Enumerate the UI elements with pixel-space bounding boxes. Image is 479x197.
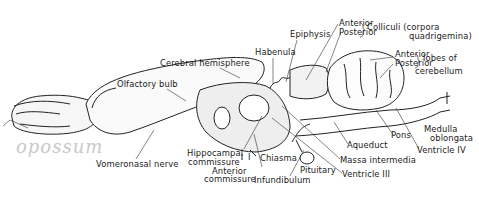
label-epiphysis: Epiphysis bbox=[290, 30, 330, 39]
label-infundibulum: Infundibulum bbox=[254, 176, 311, 185]
label-chiasma: Chiasma bbox=[260, 154, 297, 163]
label-cerebellum-group: lobes of bbox=[423, 54, 457, 63]
label-pituitary: Pituitary bbox=[300, 166, 336, 175]
label-massa-intermedia: Massa intermedia bbox=[340, 156, 416, 165]
label-colliculi-group-2: quadrigemina) bbox=[409, 32, 472, 41]
label-pons: Pons bbox=[391, 131, 411, 140]
label-vomeronasal-nerve: Vomeronasal nerve bbox=[96, 160, 179, 169]
label-habenula: Habenula bbox=[255, 48, 296, 57]
label-cerebral-hemisphere: Cerebral hemisphere bbox=[160, 59, 250, 68]
label-ventricle-iii: Ventricle III bbox=[342, 170, 390, 179]
handwritten-note: opossum bbox=[16, 136, 103, 157]
label-aqueduct: Aqueduct bbox=[347, 141, 388, 150]
brain-diagram: opossum Olfactory bulb Cerebral hemisphe… bbox=[0, 0, 479, 197]
label-anterior-commissure-2: commissure bbox=[204, 175, 256, 184]
label-cerebellum-group-2: cerebellum bbox=[415, 67, 463, 76]
label-medulla-oblongata-2: oblongata bbox=[430, 134, 473, 143]
label-ventricle-iv: Ventricle IV bbox=[417, 146, 466, 155]
label-hippocampal-commissure-2: commissure bbox=[188, 158, 240, 167]
label-olfactory-bulb: Olfactory bulb bbox=[117, 80, 178, 89]
label-roman-one: I bbox=[248, 153, 251, 162]
